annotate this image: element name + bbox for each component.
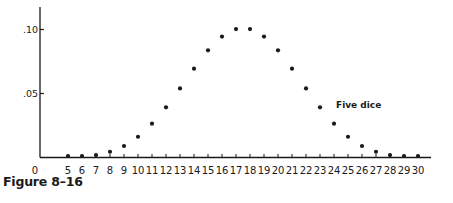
x-tick-label: 21: [286, 165, 299, 176]
x-tick-label: 28: [384, 165, 397, 176]
x-tick-label: 8: [107, 165, 113, 176]
data-point: [262, 34, 266, 38]
data-point: [360, 144, 364, 148]
y-axis: .10.05: [23, 7, 44, 158]
data-point: [416, 154, 420, 158]
data-point: [374, 150, 378, 154]
x-tick-label: 7: [93, 165, 99, 176]
data-point: [276, 48, 280, 52]
x-tick-label: 22: [300, 165, 313, 176]
x-tick-label: 11: [146, 165, 159, 176]
data-point: [164, 105, 168, 109]
x-tick-label: 24: [328, 165, 341, 176]
data-point: [304, 86, 308, 90]
x-tick-label: 26: [356, 165, 369, 176]
x-axis: 0567891011121314151617181920212223242526…: [32, 154, 431, 176]
data-point: [136, 135, 140, 139]
data-point: [248, 27, 252, 31]
data-point: [234, 27, 238, 31]
data-point: [150, 122, 154, 126]
data-point: [290, 67, 294, 71]
data-point: [220, 34, 224, 38]
x-tick-label: 13: [174, 165, 187, 176]
data-point: [108, 150, 112, 154]
data-point: [318, 105, 322, 109]
data-point: [122, 144, 126, 148]
x-tick-label: 29: [398, 165, 411, 176]
data-point: [206, 48, 210, 52]
data-point: [192, 67, 196, 71]
data-point: [332, 122, 336, 126]
data-point: [66, 154, 70, 158]
data-point: [80, 154, 84, 158]
y-tick-label: .10: [23, 24, 38, 35]
data-point: [94, 153, 98, 157]
data-point: [178, 86, 182, 90]
x-tick-label: 12: [160, 165, 173, 176]
x-tick-label: 23: [314, 165, 327, 176]
figure-caption: Figure 8–16: [3, 174, 83, 189]
probability-chart: .10.05 056789101112131415161718192021222…: [0, 0, 453, 203]
x-tick-label: 19: [258, 165, 271, 176]
x-tick-label: 20: [272, 165, 285, 176]
data-point: [388, 153, 392, 157]
x-tick-label: 18: [244, 165, 257, 176]
x-tick-label: 9: [121, 165, 127, 176]
x-tick-label: 10: [132, 165, 145, 176]
x-tick-label: 14: [188, 165, 201, 176]
data-point: [402, 154, 406, 158]
data-point: [346, 135, 350, 139]
y-tick-label: .05: [23, 88, 38, 99]
x-tick-label: 15: [202, 165, 215, 176]
x-tick-label: 25: [342, 165, 355, 176]
x-tick-label: 16: [216, 165, 229, 176]
x-tick-label: 30: [412, 165, 425, 176]
series-annotation: Five dice: [336, 100, 381, 110]
x-tick-label: 17: [230, 165, 243, 176]
x-tick-label: 27: [370, 165, 383, 176]
data-points: [66, 27, 420, 158]
